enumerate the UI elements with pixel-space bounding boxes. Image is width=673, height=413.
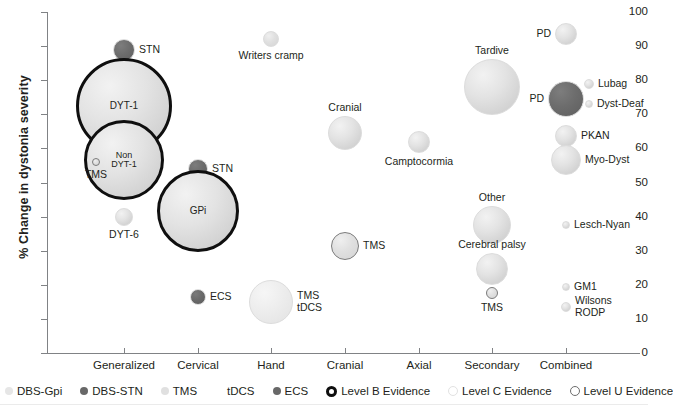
y-tick-mark [41,251,47,252]
legend-divider [0,404,648,405]
point-label: Dyst-Deaf [597,98,644,110]
bubble-point [331,232,359,260]
bubble-point [464,59,520,115]
y-axis-title: % Change in dystonia severity [17,47,31,287]
dbs-gpi-icon [5,387,13,395]
point-label: TMS [85,169,107,181]
ecs-icon [273,387,281,395]
legend-label: TMS [173,385,197,397]
bubble-point [115,208,133,226]
legend-item[interactable]: Level U Evidence [570,385,673,397]
level-u-icon [570,386,580,396]
x-tick-mark [345,348,346,354]
point-label: Other [479,192,505,204]
point-label: DYT-6 [109,229,139,241]
x-tick-mark [124,348,125,354]
y-tick-mark [41,114,47,115]
point-label: STN [212,163,233,175]
bubble-point [486,287,498,299]
bubble-point [585,100,593,108]
x-tick-label-axial: Axial [407,359,432,371]
level-b-icon [326,386,337,397]
point-label: Lubag [598,78,627,90]
bubble-inner-label: Non DYT-1 [111,151,137,169]
point-label: STN [139,44,160,56]
legend-item[interactable]: Level B Evidence [326,385,430,397]
legend-label: Level U Evidence [584,385,673,397]
x-tick-label-cervical: Cervical [177,359,219,371]
y-tick-mark [41,319,47,320]
x-tick-mark [198,348,199,354]
point-label: TMS [363,240,385,252]
legend-item[interactable]: DBS-STN [80,385,142,397]
legend-label: DBS-Gpi [17,385,62,397]
y-tick-mark [41,353,47,354]
point-label: PD [536,28,551,40]
y-axis-line [47,12,48,354]
legend-label: DBS-STN [92,385,142,397]
x-tick-mark [566,348,567,354]
y-tick-mark [41,285,47,286]
legend-label: Level B Evidence [341,385,430,397]
legend-label: Level C Evidence [462,385,552,397]
legend-item[interactable]: DBS-Gpi [5,385,62,397]
y-tick-label: 50 [612,177,648,189]
bubble-point [561,302,571,312]
legend-item[interactable]: TMS [161,385,197,397]
point-label: Writers cramp [238,50,303,62]
tdcs-icon [215,387,223,395]
point-label: Myo-Dyst [585,154,629,166]
y-tick-label: 20 [612,279,648,291]
point-label: Lesch-Nyan [574,219,630,231]
bubble-point [548,81,584,117]
bubble-point [190,289,206,305]
x-tick-mark [492,348,493,354]
y-tick-mark [41,80,47,81]
y-tick-label: 0 [612,347,648,359]
dbs-stn-icon [80,387,88,395]
bubble-point [562,283,570,291]
level-c-icon [448,386,458,396]
point-label: PD [529,93,544,105]
x-tick-mark [271,348,272,354]
y-tick-label: 30 [612,245,648,257]
legend-label: tDCS [227,385,254,397]
point-label: ECS [210,291,232,303]
bubble-inner-label: GPi [190,206,207,216]
point-label: Cranial [328,102,361,114]
point-label: Wilsons RODP [575,295,612,319]
bubble-point [476,253,508,285]
x-tick-label-generalized: Generalized [93,359,155,371]
bubble-point [408,131,430,153]
x-tick-mark [419,348,420,354]
x-tick-label-secondary: Secondary [465,359,520,371]
chart-legend: DBS-GpiDBS-STNTMStDCSECSLevel B Evidence… [47,381,640,401]
y-tick-mark [41,217,47,218]
legend-item[interactable]: ECS [273,385,309,397]
y-tick-label: 10 [612,313,648,325]
y-tick-label: 70 [612,108,648,120]
point-label: GM1 [574,281,597,293]
x-tick-label-combined: Combined [540,359,592,371]
legend-item[interactable]: Level C Evidence [448,385,552,397]
bubble-point [562,221,570,229]
y-tick-label: 60 [612,142,648,154]
x-tick-label-cranial: Cranial [327,359,363,371]
x-tick-label-hand: Hand [257,359,285,371]
bubble-point [328,116,362,150]
legend-label: ECS [285,385,309,397]
bubble-point [263,31,279,47]
bubble-point [92,158,100,166]
bubble-point [551,145,581,175]
tms-icon [161,387,169,395]
legend-item[interactable]: tDCS [215,385,254,397]
y-tick-mark [41,46,47,47]
point-label: Tardive [475,45,509,57]
y-tick-label: 90 [612,40,648,52]
point-label: Camptocormia [385,156,453,168]
point-label: Cerebral palsy [458,239,526,251]
y-tick-label: 100 [612,6,648,18]
point-label: PKAN [581,130,610,142]
y-tick-mark [41,12,47,13]
